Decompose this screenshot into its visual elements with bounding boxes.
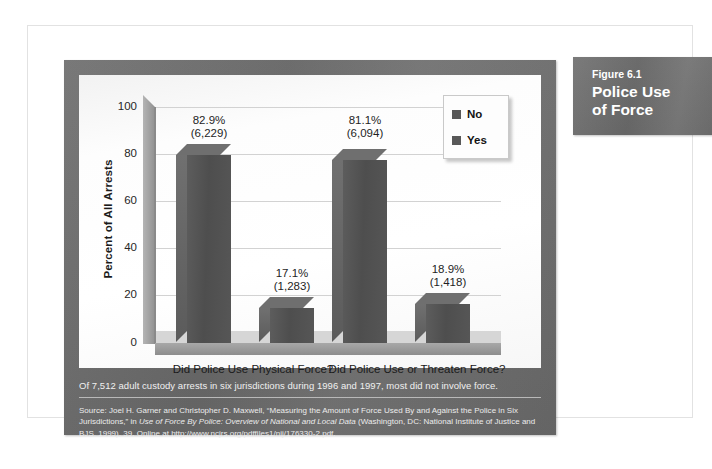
- source-line-2-prefix: in: [130, 417, 139, 426]
- bar-no-threaten-side: [332, 160, 343, 342]
- figure-source: Source: Joel H. Garner and Christopher D…: [79, 405, 537, 439]
- figure-heading: Police Use of Force: [592, 83, 670, 119]
- legend-swatch-yes-icon: [452, 136, 461, 145]
- chart-floor: [155, 343, 501, 355]
- legend-label-no: No: [467, 108, 482, 120]
- bar-yes-physical-top: [259, 297, 314, 308]
- bar-yes-threaten[interactable]: [426, 304, 470, 343]
- bar-no-threaten[interactable]: [343, 160, 387, 343]
- y-axis-title: Percent of All Arrests: [102, 134, 114, 304]
- y-tick-60: 60: [107, 195, 137, 207]
- figure-caption: Of 7,512 adult custody arrests in six ju…: [79, 380, 529, 391]
- bar-no-physical-side: [176, 155, 187, 342]
- legend-swatch-no-icon: [452, 110, 461, 119]
- legend-label-yes: Yes: [467, 134, 487, 146]
- source-line-2-title: Use of Force By Police: Overview of Nati…: [139, 417, 356, 426]
- bar-no-physical[interactable]: [187, 155, 231, 343]
- chart-plate: Percent of All Arrests 100 80 60 40 20 0: [79, 75, 541, 368]
- y-tick-0: 0: [107, 337, 137, 349]
- figure-page-card: Percent of All Arrests 100 80 60 40 20 0: [28, 26, 692, 417]
- bar-label-yes-physical: 17.1% (1,283): [252, 267, 332, 293]
- bar-no-threaten-top: [332, 149, 387, 160]
- x-category-label-threaten-force: Did Police Use or Threaten Force?: [289, 363, 545, 375]
- bar-yes-physical[interactable]: [270, 308, 314, 343]
- figure-panel: Percent of All Arrests 100 80 60 40 20 0: [64, 60, 556, 435]
- y-axis-line: [154, 107, 156, 344]
- figure-title-box: Figure 6.1 Police Use of Force: [573, 57, 712, 135]
- figure-number: Figure 6.1: [592, 68, 642, 80]
- y-tick-40: 40: [107, 242, 137, 254]
- legend-item-no[interactable]: No: [452, 108, 482, 120]
- y-tick-80: 80: [107, 148, 137, 160]
- bar-label-yes-threaten: 18.9% (1,418): [408, 263, 488, 289]
- bar-chart: Percent of All Arrests 100 80 60 40 20 0: [79, 75, 541, 368]
- chart-legend: No Yes: [443, 95, 509, 159]
- legend-item-yes[interactable]: Yes: [452, 134, 487, 146]
- y-tick-20: 20: [107, 289, 137, 301]
- bar-label-no-threaten: 81.1% (6,094): [325, 114, 405, 140]
- caption-divider: [79, 397, 541, 398]
- y-tick-100: 100: [107, 101, 137, 113]
- bar-label-no-physical: 82.9% (6,229): [169, 114, 249, 140]
- source-line-3-url: at http://www.ncjrs.org/pdffiles1/nij/17…: [162, 429, 335, 438]
